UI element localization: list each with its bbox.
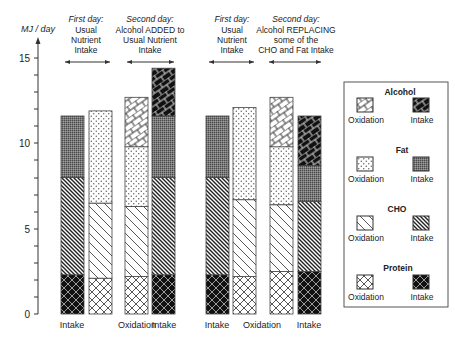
bar-intake	[152, 68, 175, 314]
svg-text:Oxidation: Oxidation	[348, 292, 384, 302]
segment-protein	[270, 271, 293, 314]
segment-fat	[152, 116, 175, 177]
header-group2-first-day: First day: Usual Nutrient Intake	[209, 14, 254, 64]
svg-text:Oxidation: Oxidation	[348, 233, 384, 243]
segment-alcohol	[298, 116, 321, 166]
svg-text:Intake: Intake	[138, 45, 161, 55]
segment-fat	[89, 111, 112, 203]
alcohol-oxidation-swatch	[357, 98, 373, 112]
svg-text:Usual: Usual	[75, 25, 97, 35]
period-headers: First day: Usual Nutrient Intake Second …	[65, 14, 336, 64]
svg-text:some of the: some of the	[274, 35, 319, 45]
svg-text:Nutrient: Nutrient	[217, 35, 247, 45]
x-labels: Intake Oxidation Intake Intake Oxidation…	[60, 320, 322, 330]
stacked-bars	[61, 68, 321, 314]
y-axis: MJ / day 0 5 10 15	[19, 24, 56, 320]
fat-intake-swatch	[413, 157, 429, 171]
segment-protein	[152, 275, 175, 314]
segment-fat	[298, 166, 321, 202]
protein-intake-swatch	[413, 275, 429, 289]
svg-text:Oxidation: Oxidation	[348, 115, 384, 125]
alcohol-intake-swatch	[413, 98, 429, 112]
bar-oxidation	[233, 108, 256, 315]
segment-protein	[233, 277, 256, 315]
svg-text:First day:: First day:	[69, 14, 105, 24]
segment-protein	[89, 278, 112, 314]
svg-text:Fat: Fat	[396, 145, 409, 155]
bar-oxidation	[125, 97, 148, 314]
y-tick-5: 5	[24, 224, 30, 235]
legend: Alcohol Oxidation Intake Fat Oxidation I…	[344, 82, 448, 307]
segment-alcohol	[125, 97, 148, 147]
y-axis-label: MJ / day	[21, 24, 56, 34]
nutrient-balance-chart: MJ / day 0 5 10 15 First day:	[0, 0, 455, 337]
svg-text:Alcohol ADDED to: Alcohol ADDED to	[116, 25, 185, 35]
svg-text:Usual: Usual	[221, 25, 243, 35]
segment-cho	[233, 200, 256, 277]
bar-oxidation	[270, 97, 293, 314]
svg-text:Second day:: Second day:	[126, 14, 174, 24]
bar-intake	[61, 116, 84, 314]
svg-text:Intake: Intake	[410, 233, 433, 243]
segment-cho	[125, 207, 148, 277]
arrow-up-icon	[36, 37, 41, 44]
svg-text:Intake: Intake	[410, 292, 433, 302]
x-label-intake: Intake	[297, 320, 322, 330]
segment-alcohol	[270, 97, 293, 147]
y-tick-15: 15	[19, 53, 31, 64]
protein-oxidation-swatch	[357, 275, 373, 289]
segment-cho	[298, 201, 321, 271]
segment-fat	[233, 108, 256, 200]
svg-text:CHO: CHO	[388, 204, 407, 214]
segment-cho	[61, 178, 84, 275]
segment-cho	[89, 203, 112, 278]
segment-cho	[206, 178, 229, 275]
x-label-intake: Intake	[152, 320, 177, 330]
svg-text:Intake: Intake	[74, 45, 97, 55]
bar-intake	[298, 116, 321, 314]
svg-text:Intake: Intake	[220, 45, 243, 55]
segment-protein	[298, 271, 321, 314]
svg-text:Alcohol REPLACING: Alcohol REPLACING	[256, 25, 335, 35]
x-label-intake: Intake	[60, 320, 85, 330]
x-label-oxidation: Oxidation	[118, 320, 156, 330]
cho-oxidation-swatch	[357, 216, 373, 230]
segment-fat	[270, 147, 293, 205]
x-label-oxidation: Oxidation	[243, 320, 281, 330]
fat-oxidation-swatch	[357, 157, 373, 171]
svg-text:Intake: Intake	[410, 115, 433, 125]
x-label-intake: Intake	[205, 320, 230, 330]
svg-text:CHO and Fat Intake: CHO and Fat Intake	[258, 45, 334, 55]
header-group1-second-day: Second day: Alcohol ADDED to Usual Nutri…	[116, 14, 185, 64]
y-tick-10: 10	[19, 138, 31, 149]
svg-text:Alcohol: Alcohol	[384, 87, 415, 97]
segment-fat	[206, 116, 229, 177]
segment-cho	[152, 178, 175, 275]
svg-text:Protein: Protein	[383, 263, 412, 273]
cho-intake-swatch	[413, 216, 429, 230]
segment-protein	[61, 275, 84, 314]
segment-protein	[125, 277, 148, 315]
header-group1-first-day: First day: Usual Nutrient Intake	[65, 14, 110, 64]
bar-oxidation	[89, 111, 112, 314]
svg-text:First day:: First day:	[215, 14, 251, 24]
header-group2-second-day: Second day: Alcohol REPLACING some of th…	[256, 14, 335, 64]
segment-cho	[270, 205, 293, 272]
svg-text:Second day:: Second day:	[272, 14, 320, 24]
segment-alcohol	[152, 68, 175, 116]
segment-fat	[125, 147, 148, 207]
svg-text:Nutrient: Nutrient	[71, 35, 101, 45]
segment-fat	[61, 116, 84, 177]
y-tick-0: 0	[24, 309, 30, 320]
svg-text:Intake: Intake	[410, 174, 433, 184]
svg-text:Usual Nutrient: Usual Nutrient	[123, 35, 177, 45]
segment-protein	[206, 275, 229, 314]
bar-intake	[206, 116, 229, 314]
svg-text:Oxidation: Oxidation	[348, 174, 384, 184]
